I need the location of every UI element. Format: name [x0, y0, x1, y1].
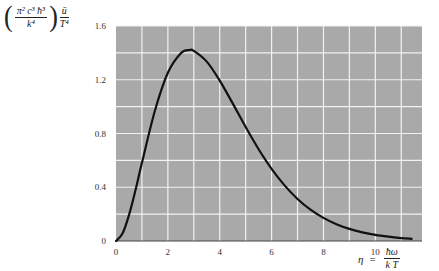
equals-sign: = [369, 253, 375, 265]
x-tick-label: 0 [114, 247, 119, 257]
x-tick-label: 2 [166, 247, 171, 257]
x-tick-label: 6 [269, 247, 274, 257]
x-axis-label: η = ħω k T [358, 246, 402, 271]
chart-canvas: 0246810 00.40.81.21.6 [0, 0, 439, 271]
x-tick-label: 4 [217, 247, 222, 257]
x-tick-labels: 0246810 [114, 247, 381, 257]
eta-numerator: ħω [384, 246, 400, 259]
y-tick-label: 0.4 [95, 182, 107, 192]
eta-symbol: η [358, 253, 363, 265]
y-tick-label: 1.2 [95, 75, 106, 85]
x-tick-label: 8 [321, 247, 326, 257]
eta-fraction: ħω k T [384, 246, 400, 271]
y-tick-labels: 00.40.81.21.6 [95, 21, 107, 246]
y-tick-label: 0.8 [95, 129, 107, 139]
y-tick-label: 1.6 [95, 21, 107, 31]
y-tick-label: 0 [102, 236, 107, 246]
eta-denominator: k T [385, 259, 398, 271]
